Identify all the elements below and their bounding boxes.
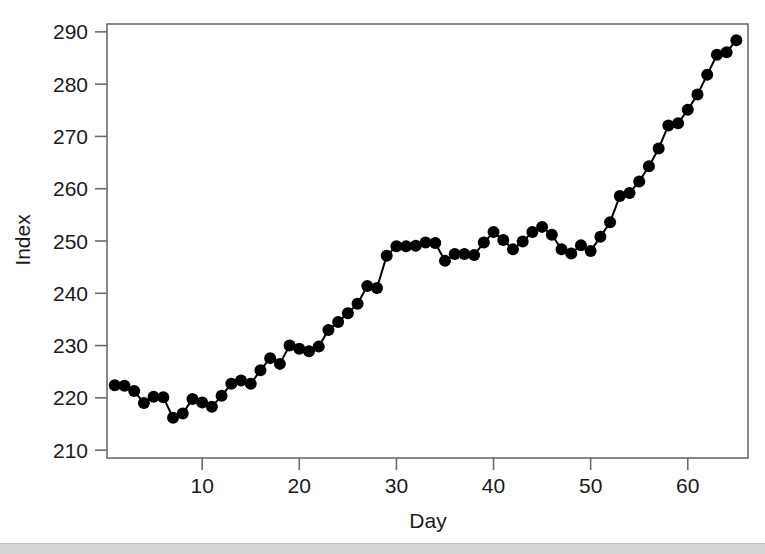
data-point-marker bbox=[352, 298, 364, 310]
data-point-marker bbox=[439, 255, 451, 267]
x-axis-title: Day bbox=[409, 509, 447, 532]
y-tick-label: 220 bbox=[53, 386, 88, 409]
data-point-marker bbox=[206, 401, 218, 413]
data-point-marker bbox=[274, 358, 286, 370]
data-point-marker bbox=[517, 236, 529, 248]
y-tick-label: 250 bbox=[53, 230, 88, 253]
y-tick-label: 240 bbox=[53, 282, 88, 305]
data-point-marker bbox=[692, 89, 704, 101]
data-point-marker bbox=[565, 248, 577, 260]
data-point-marker bbox=[701, 69, 713, 81]
data-point-marker bbox=[478, 237, 490, 249]
data-point-marker bbox=[342, 307, 354, 319]
data-point-marker bbox=[254, 364, 266, 376]
data-point-marker bbox=[381, 250, 393, 262]
data-point-marker bbox=[672, 117, 684, 129]
data-point-marker bbox=[585, 245, 597, 257]
data-point-marker bbox=[624, 187, 636, 199]
x-tick-label: 20 bbox=[288, 474, 311, 497]
data-point-marker bbox=[653, 142, 665, 154]
y-tick-label: 260 bbox=[53, 177, 88, 200]
data-point-marker bbox=[497, 234, 509, 246]
data-point-marker bbox=[488, 226, 500, 238]
y-tick-label: 270 bbox=[53, 125, 88, 148]
data-point-marker bbox=[594, 231, 606, 243]
data-point-marker bbox=[536, 221, 548, 233]
data-point-marker bbox=[546, 229, 558, 241]
data-point-marker bbox=[429, 237, 441, 249]
data-point-marker bbox=[468, 249, 480, 261]
data-point-marker bbox=[177, 408, 189, 420]
data-point-marker bbox=[128, 385, 140, 397]
x-tick-label: 40 bbox=[482, 474, 505, 497]
y-tick-label: 280 bbox=[53, 73, 88, 96]
data-point-marker bbox=[371, 282, 383, 294]
data-point-marker bbox=[332, 316, 344, 328]
data-point-marker bbox=[157, 391, 169, 403]
y-tick-label: 230 bbox=[53, 334, 88, 357]
y-tick-label: 210 bbox=[53, 439, 88, 462]
x-tick-label: 60 bbox=[676, 474, 699, 497]
data-point-marker bbox=[730, 34, 742, 46]
data-point-marker bbox=[643, 160, 655, 172]
data-point-marker bbox=[604, 216, 616, 228]
data-point-marker bbox=[216, 390, 228, 402]
data-point-marker bbox=[507, 243, 519, 255]
x-tick-label: 10 bbox=[190, 474, 213, 497]
x-tick-label: 30 bbox=[385, 474, 408, 497]
bottom-gray-strip bbox=[0, 543, 765, 554]
y-axis-tick-labels: 210220230240250260270280290 bbox=[53, 20, 88, 461]
data-point-marker bbox=[633, 175, 645, 187]
data-point-marker bbox=[322, 324, 334, 336]
data-point-marker bbox=[245, 378, 257, 390]
index-vs-day-line-chart: 210220230240250260270280290 102030405060… bbox=[0, 0, 765, 543]
data-point-marker bbox=[721, 46, 733, 58]
y-axis-title: Index bbox=[11, 214, 34, 266]
data-point-marker bbox=[313, 341, 325, 353]
data-point-marker bbox=[682, 104, 694, 116]
x-tick-label: 50 bbox=[579, 474, 602, 497]
y-tick-label: 290 bbox=[53, 20, 88, 43]
